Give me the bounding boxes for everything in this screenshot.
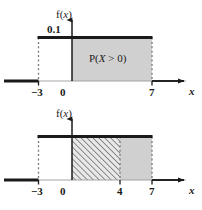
top-chart-panel: f(x) 0.1 P(X > 0) −3 0 7 x (0, 0, 202, 105)
top-x-axis-label: x (189, 86, 195, 97)
shaded-region-4-to-7 (120, 137, 152, 181)
hatched-region-0-to-4 (72, 137, 120, 181)
top-density-value-label: 0.1 (47, 24, 61, 35)
bottom-chart-panel: f(x) −3 0 4 7 x (0, 105, 202, 210)
top-tick-label-7: 7 (149, 87, 155, 98)
bottom-x-axis-label: x (189, 185, 195, 196)
bottom-tick-label-4: 4 (117, 186, 123, 197)
top-tick-label-0: 0 (60, 87, 66, 98)
bottom-tick-label-neg3: −3 (31, 186, 43, 197)
top-tick-label-neg3: −3 (31, 87, 43, 98)
bottom-y-axis-label: f(x) (56, 108, 72, 119)
uniform-distribution-figure: f(x) 0.1 P(X > 0) −3 0 7 x (0, 0, 202, 210)
bottom-tick-label-0: 0 (60, 186, 66, 197)
top-y-axis-label: f(x) (56, 9, 72, 20)
probability-label: P(X > 0) (89, 53, 126, 64)
bottom-tick-label-7: 7 (149, 186, 155, 197)
